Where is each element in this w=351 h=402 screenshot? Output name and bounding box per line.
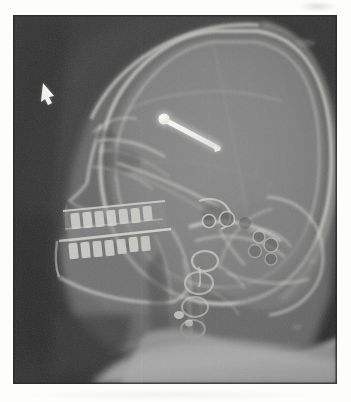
film-grain [13, 15, 337, 384]
paper-smudge-bottom [18, 390, 318, 400]
radiograph-page [0, 0, 351, 402]
xray-image [13, 15, 337, 384]
paper-smudge-top-right [300, 2, 336, 11]
xray-film [13, 15, 337, 384]
